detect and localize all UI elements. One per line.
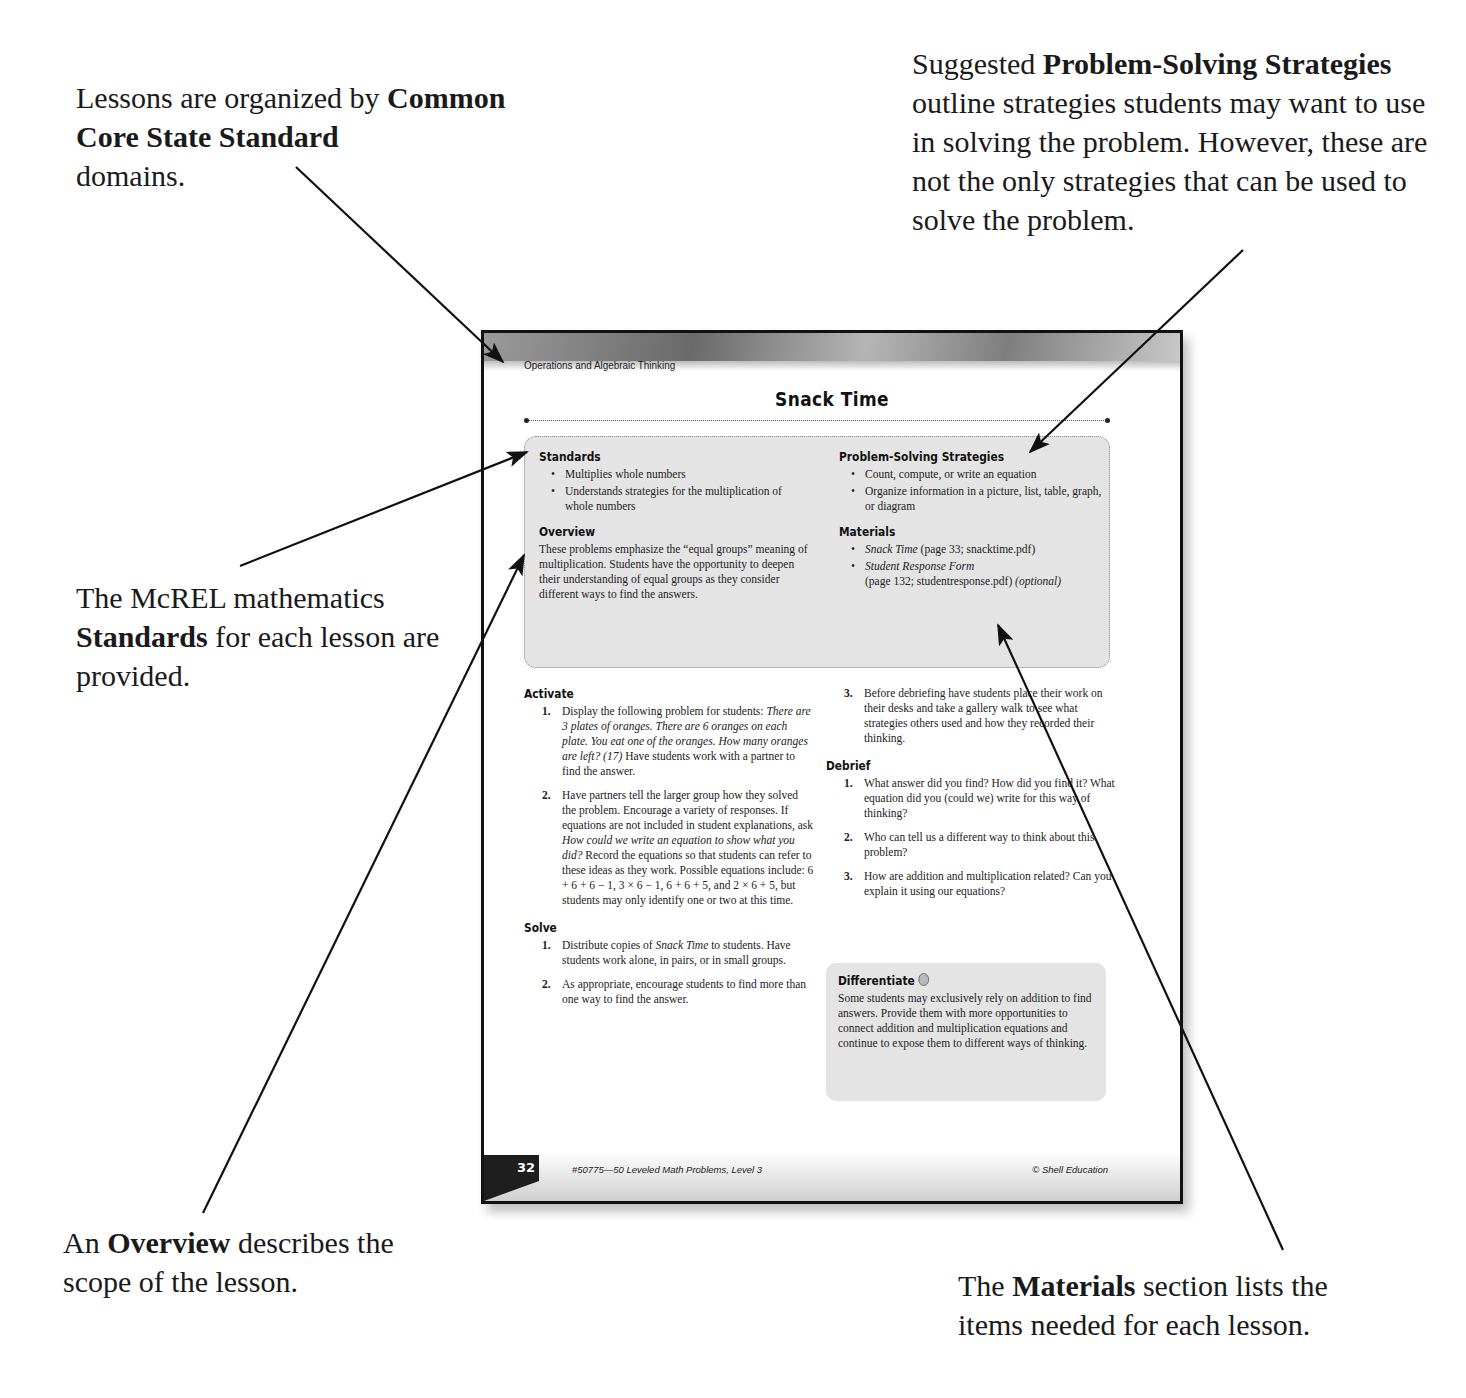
solve-step: 1.Distribute copies of Snack Time to stu… xyxy=(562,938,814,968)
step-number: 2. xyxy=(542,788,551,803)
page-number: 32 xyxy=(484,1155,539,1181)
material-note: (optional) xyxy=(1015,575,1061,587)
info-box: Standards Multiplies whole numbers Under… xyxy=(524,436,1110,668)
step-text: Distribute copies of xyxy=(562,939,656,951)
callout-text: domains. xyxy=(76,159,185,192)
step-number: 1. xyxy=(542,704,551,719)
activate-step: 1.Display the following problem for stud… xyxy=(562,704,814,779)
standards-heading: Standards xyxy=(539,449,760,464)
callout-text: outline strategies students may want to … xyxy=(912,86,1427,236)
materials-list: Snack Time (page 33; snacktime.pdf) Stud… xyxy=(839,542,1109,589)
standards-list: Multiplies whole numbers Understands str… xyxy=(539,467,809,514)
solve-heading: Solve xyxy=(524,920,762,935)
step-number: 1. xyxy=(844,776,853,791)
callout-bold: Standards xyxy=(76,620,208,653)
callout-ccss-domains: Lessons are organized by Common Core Sta… xyxy=(76,78,546,195)
info-right-column: Problem-Solving Strategies Count, comput… xyxy=(839,449,1109,599)
debrief-question: 3.How are addition and multiplication re… xyxy=(864,869,1116,899)
step-number: 2. xyxy=(542,977,551,992)
step-text: Display the following problem for studen… xyxy=(562,705,766,717)
step-text: How are addition and multiplication rela… xyxy=(864,870,1112,897)
step-text: Before debriefing have students place th… xyxy=(864,687,1103,744)
material-detail: (page 132; studentresponse.pdf) xyxy=(865,575,1015,587)
materials-heading: Materials xyxy=(839,524,1060,539)
lesson-left-column: Activate 1.Display the following problem… xyxy=(524,686,814,1016)
overview-heading: Overview xyxy=(539,524,760,539)
activate-heading: Activate xyxy=(524,686,762,701)
material-title: Student Response Form xyxy=(865,560,974,572)
materials-item: Student Response Form (page 132; student… xyxy=(865,559,1109,589)
gray-circle-icon xyxy=(918,973,929,986)
solve-list-continued: 3.Before debriefing have students place … xyxy=(826,686,1116,746)
differentiate-text: Some students may exclusively rely on ad… xyxy=(838,991,1098,1051)
debrief-question: 1.What answer did you find? How did you … xyxy=(864,776,1116,821)
callout-bold: Problem-Solving Strategies xyxy=(1043,47,1392,80)
callout-standards: The McREL mathematics Standards for each… xyxy=(76,578,456,695)
debrief-heading: Debrief xyxy=(826,758,1064,773)
strategies-item: Count, compute, or write an equation xyxy=(865,467,1109,482)
solve-list: 1.Distribute copies of Snack Time to stu… xyxy=(524,938,814,1007)
step-text: As appropriate, encourage students to fi… xyxy=(562,978,806,1005)
title-divider xyxy=(526,420,1108,421)
debrief-list: 1.What answer did you find? How did you … xyxy=(826,776,1116,899)
info-left-column: Standards Multiplies whole numbers Under… xyxy=(539,449,809,602)
callout-bold: Materials xyxy=(1012,1269,1135,1302)
domain-label: Operations and Algebraic Thinking xyxy=(524,359,675,371)
solve-step: 2.As appropriate, encourage students to … xyxy=(562,977,814,1007)
step-number: 3. xyxy=(844,869,853,884)
step-text: Who can tell us a different way to think… xyxy=(864,831,1094,858)
callout-text: Lessons are organized by xyxy=(76,81,387,114)
activate-step: 2.Have partners tell the larger group ho… xyxy=(562,788,814,908)
lesson-page: Operations and Algebraic Thinking Snack … xyxy=(481,330,1183,1204)
page-number-tab xyxy=(484,1181,539,1201)
callout-text: The xyxy=(958,1269,1012,1302)
strategies-item: Organize information in a picture, list,… xyxy=(865,484,1109,514)
callout-problem-solving-strategies: Suggested Problem-Solving Strategies out… xyxy=(912,44,1432,239)
step-number: 1. xyxy=(542,938,551,953)
overview-text: These problems emphasize the “equal grou… xyxy=(539,542,809,602)
material-detail: (page 33; snacktime.pdf) xyxy=(918,543,1036,555)
strategies-heading: Problem-Solving Strategies xyxy=(839,449,1060,464)
callout-text: The McREL mathematics xyxy=(76,581,385,614)
differentiate-content: Differentiate Some students may exclusiv… xyxy=(838,973,1098,1051)
arrow-ccss xyxy=(296,167,503,362)
callout-materials: The Materials section lists the items ne… xyxy=(958,1266,1378,1344)
differentiate-heading-text: Differentiate xyxy=(838,973,915,988)
book-title: #50775—50 Leveled Math Problems, Level 3 xyxy=(572,1164,762,1175)
page-footer: 32 #50775—50 Leveled Math Problems, Leve… xyxy=(484,1151,1180,1201)
activate-list: 1.Display the following problem for stud… xyxy=(524,704,814,908)
copyright: © Shell Education xyxy=(1032,1164,1108,1175)
differentiate-heading: Differentiate xyxy=(838,973,1051,988)
lesson-title: Snack Time xyxy=(536,387,1128,411)
solve-step: 3.Before debriefing have students place … xyxy=(864,686,1116,746)
callout-bold: Overview xyxy=(107,1226,230,1259)
step-text: Have partners tell the larger group how … xyxy=(562,789,813,831)
callout-overview: An Overview describes the scope of the l… xyxy=(63,1223,463,1301)
header-band xyxy=(484,333,1180,361)
step-number: 2. xyxy=(844,830,853,845)
step-italic: Snack Time xyxy=(656,939,709,951)
differentiate-box: Differentiate Some students may exclusiv… xyxy=(826,963,1106,1101)
standards-item: Understands strategies for the multiplic… xyxy=(565,484,809,514)
callout-text: An xyxy=(63,1226,107,1259)
strategies-list: Count, compute, or write an equation Org… xyxy=(839,467,1109,514)
lesson-right-column: 3.Before debriefing have students place … xyxy=(826,686,1116,908)
materials-item: Snack Time (page 33; snacktime.pdf) xyxy=(865,542,1109,557)
standards-item: Multiplies whole numbers xyxy=(565,467,809,482)
step-text: What answer did you find? How did you fi… xyxy=(864,777,1115,819)
material-title: Snack Time xyxy=(865,543,918,555)
debrief-question: 2.Who can tell us a different way to thi… xyxy=(864,830,1116,860)
step-text: Record the equations so that students ca… xyxy=(562,849,813,906)
step-number: 3. xyxy=(844,686,853,701)
callout-text: Suggested xyxy=(912,47,1043,80)
